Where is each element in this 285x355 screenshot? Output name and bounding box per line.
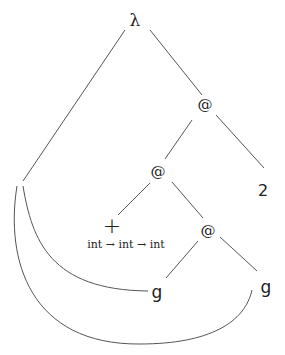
edge-lambda-binder xyxy=(23,30,125,181)
edge-app3-g-right xyxy=(220,237,257,271)
syntax-tree-diagram: λ @ @ 2 + int → int → int @ g g xyxy=(0,0,285,355)
variable-g-left-node: g xyxy=(152,282,163,302)
variable-g-right-node: g xyxy=(261,277,272,297)
edge-app2-app3 xyxy=(172,182,203,218)
edge-app1-two xyxy=(216,115,264,168)
application-node-2: @ xyxy=(151,162,166,180)
edge-app3-g-left xyxy=(166,241,198,278)
binding-curve-g-right xyxy=(14,186,252,344)
lambda-node: λ xyxy=(130,10,141,30)
application-node-1: @ xyxy=(198,95,213,113)
application-node-3: @ xyxy=(201,221,216,239)
edge-app1-app2 xyxy=(165,120,192,159)
literal-two-node: 2 xyxy=(258,181,268,200)
edge-app2-plus xyxy=(118,183,150,215)
plus-operator-node: + xyxy=(103,213,121,238)
edge-lambda-app1 xyxy=(150,30,202,95)
tree-edges xyxy=(0,0,285,355)
plus-type-annotation: int → int → int xyxy=(87,238,165,251)
